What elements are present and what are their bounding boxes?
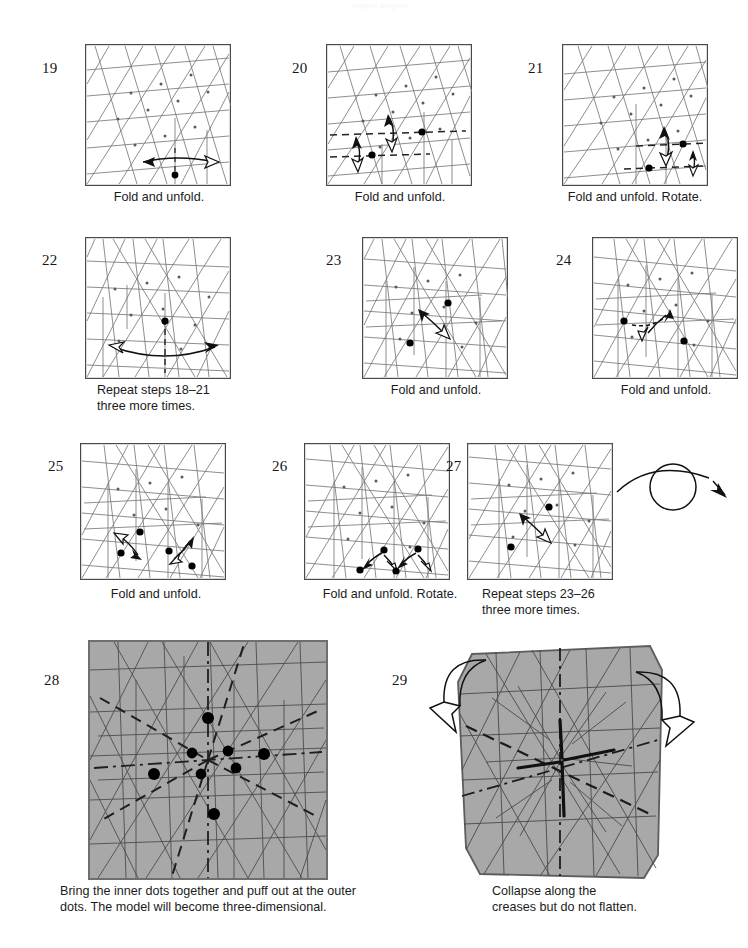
step-number-24: 24	[556, 252, 571, 269]
step-caption-29: Collapse along the creases but do not fl…	[492, 884, 742, 915]
crease-pattern-panel-27	[467, 443, 613, 580]
step-caption-19: Fold and unfold.	[75, 190, 243, 206]
step-number-25: 25	[48, 458, 63, 475]
step-number-27: 27	[446, 458, 461, 475]
crease-pattern-panel-24	[592, 237, 738, 379]
step-caption-25: Fold and unfold.	[72, 587, 240, 603]
crease-pattern-panel-22	[85, 237, 231, 379]
step-number-28: 28	[44, 672, 59, 689]
crease-pattern-panel-28	[88, 640, 328, 880]
crease-pattern-panel-23	[362, 237, 508, 379]
step-number-19: 19	[42, 60, 57, 77]
step-caption-21: Fold and unfold. Rotate.	[530, 190, 740, 206]
step-number-20: 20	[292, 60, 307, 77]
faint-header-artifact: origami diagram	[300, 2, 460, 14]
step-number-23: 23	[326, 252, 341, 269]
step-caption-22: Repeat steps 18–21 three more times.	[97, 383, 297, 414]
step-caption-23: Fold and unfold.	[352, 383, 520, 399]
step-caption-26: Fold and unfold. Rotate.	[290, 587, 490, 603]
crease-pattern-panel-21	[562, 44, 708, 186]
crease-pattern-panel-25	[80, 443, 226, 580]
step-caption-24: Fold and unfold.	[582, 383, 748, 399]
crease-pattern-panel-19	[85, 44, 231, 186]
crease-pattern-panel-29	[400, 640, 710, 890]
turn-over-symbol	[613, 452, 743, 527]
crease-pattern-panel-26	[304, 443, 450, 580]
crease-pattern-panel-20	[326, 44, 472, 186]
step-caption-27: Repeat steps 23–26 three more times.	[482, 587, 682, 618]
step-caption-20: Fold and unfold.	[316, 190, 484, 206]
origami-diagram-page: origami diagram 19	[0, 0, 748, 948]
step-number-26: 26	[272, 458, 287, 475]
step-number-21: 21	[528, 60, 543, 77]
step-number-22: 22	[42, 252, 57, 269]
